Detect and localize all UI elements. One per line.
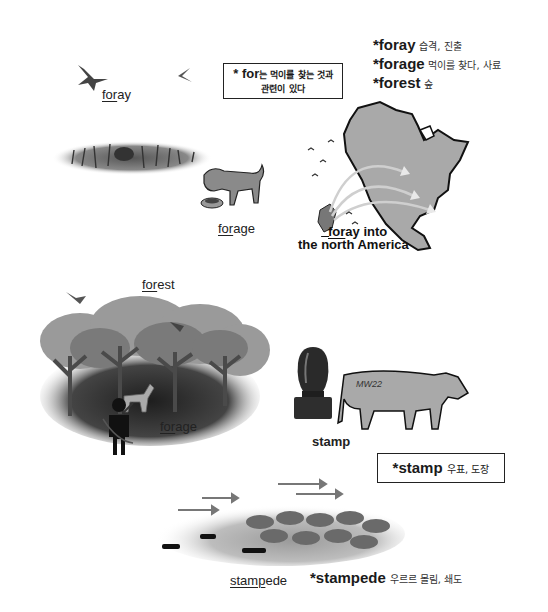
note-line2: 관련이 있다 — [224, 82, 342, 95]
stampede-definition: *stampede 우르르 몰림, 쇄도 — [310, 569, 462, 588]
hunter-icon — [101, 397, 137, 457]
definitions-top: *foray 습격, 진출 *forage 먹이를 찾다, 사료 *forest… — [373, 36, 501, 93]
dog-eating-icon — [198, 163, 270, 219]
label-stamp: stamp — [312, 434, 350, 449]
stampede-illustration — [150, 478, 400, 568]
definition-forage: *forage 먹이를 찾다, 사료 — [373, 55, 501, 74]
cow-icon: MW22 — [338, 365, 478, 433]
stamp-word: *stamp — [393, 459, 443, 476]
swallow-icon — [172, 66, 194, 86]
note-box: * for는 먹이를 찾는 것과 관련이 있다 — [223, 63, 343, 99]
label-stampede: stampede — [230, 573, 287, 588]
label-foray: foray — [102, 87, 131, 102]
note-line1: 는 먹이를 찾는 것과 — [259, 70, 332, 80]
rubber-stamp-icon — [292, 345, 334, 427]
grass-rabbit-icon — [52, 140, 212, 180]
label-forage-dog: forage — [218, 221, 255, 236]
cow-brand-text: MW22 — [356, 379, 382, 389]
label-foray-map: foray into the north America — [298, 225, 409, 251]
stampede-word: *stampede — [310, 569, 386, 586]
definition-foray: *foray 습격, 진출 — [373, 36, 501, 55]
stampede-meaning: 우르르 몰림, 쇄도 — [390, 574, 463, 585]
label-forage-hunter: forage — [160, 419, 197, 434]
stamp-meaning: 우표, 도장 — [447, 464, 489, 475]
definition-forest: *forest 숲 — [373, 74, 501, 93]
note-prefix: * for — [233, 66, 259, 81]
forest-illustration — [40, 286, 280, 466]
